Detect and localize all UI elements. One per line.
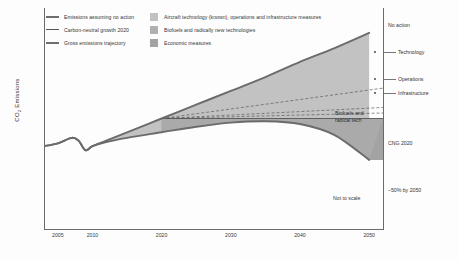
- right-label-no-action: No action: [388, 22, 410, 28]
- right-tick-mark: [384, 79, 396, 80]
- x-tick-label-2020: 2020: [156, 232, 168, 238]
- right-tick-mark: [384, 52, 396, 53]
- right-axis-line: [383, 8, 384, 229]
- right-label-infrastructure: Infrastructure: [398, 90, 429, 96]
- x-tick-label-2010: 2010: [87, 232, 99, 238]
- right-label-operations: Operations: [398, 76, 423, 82]
- x-axis-line: [44, 229, 384, 230]
- chart-container: Emissions assuming no action Carbon-neut…: [0, 0, 459, 261]
- chart-plot-area: [0, 0, 459, 261]
- x-tick-label-2030: 2030: [225, 232, 237, 238]
- x-tick-label-2050: 2050: [363, 232, 375, 238]
- right-label-50-by-2050: –50% by 2050: [388, 187, 421, 193]
- chart-series-group: [44, 33, 383, 160]
- x-tick-label-2005: 2005: [52, 232, 64, 238]
- right-label-cng-2020: CNG 2020: [388, 140, 413, 146]
- x-tick-label-2040: 2040: [294, 232, 306, 238]
- inline-label-biofuels-radical-tech: Biofuels and radical tech: [335, 110, 364, 124]
- wedge-biofuels-radical: [162, 119, 383, 160]
- right-tick-mark: [384, 93, 396, 94]
- right-label-technology: Technology: [398, 49, 424, 55]
- not-to-scale-note: Not to scale: [333, 195, 360, 202]
- y-axis-title: CO2 Emissions: [14, 60, 22, 140]
- y-axis-line: [44, 8, 45, 229]
